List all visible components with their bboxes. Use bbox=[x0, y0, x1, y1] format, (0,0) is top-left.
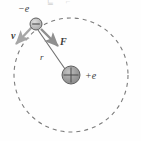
physics-diagram-figure: ⊑ ⌐ bbox=[0, 0, 141, 141]
velocity-vector-arrow bbox=[16, 27, 32, 44]
electron-charge-label: −e bbox=[18, 3, 30, 14]
diagram-canvas: −e +e v F r bbox=[0, 0, 141, 141]
radius-label: r bbox=[40, 52, 44, 62]
velocity-vector-label: v bbox=[11, 30, 16, 41]
electron-particle bbox=[30, 18, 42, 30]
proton-nucleus bbox=[62, 66, 80, 84]
force-vector-label: F bbox=[59, 36, 67, 47]
proton-charge-label: +e bbox=[85, 70, 97, 81]
